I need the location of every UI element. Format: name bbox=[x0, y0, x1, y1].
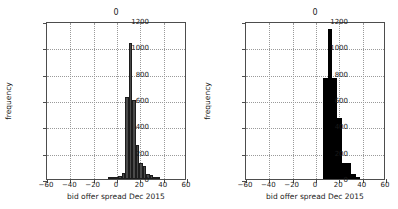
panel-right-xlabel: bid offer spread Dec 2015 bbox=[245, 192, 385, 201]
histogram-bar bbox=[122, 173, 126, 179]
gridline-horizontal bbox=[246, 128, 384, 129]
xtick-label: 0 bbox=[313, 182, 317, 189]
histogram-bar bbox=[118, 176, 122, 179]
ytick-mark bbox=[242, 49, 246, 50]
ytick-label: 1000 bbox=[330, 45, 348, 52]
histogram-bar bbox=[351, 174, 356, 179]
ytick-mark bbox=[242, 128, 246, 129]
gridline-horizontal bbox=[246, 102, 384, 103]
gridline-horizontal bbox=[47, 49, 185, 50]
panel-right-gridlines bbox=[246, 23, 384, 179]
gridline-vertical bbox=[117, 23, 118, 179]
ytick-mark bbox=[43, 102, 47, 103]
ytick-label: 0 bbox=[145, 177, 149, 184]
xtick-label: 20 bbox=[135, 182, 144, 189]
histogram-bar bbox=[108, 177, 112, 179]
gridline-horizontal bbox=[47, 76, 185, 77]
xtick-label: −60 bbox=[238, 182, 253, 189]
gridline-vertical bbox=[70, 23, 71, 179]
histogram-bar bbox=[125, 97, 129, 179]
xtick-label: −20 bbox=[284, 182, 299, 189]
histogram-bar bbox=[129, 43, 133, 179]
xtick-label: −20 bbox=[85, 182, 100, 189]
xtick-label: 60 bbox=[381, 182, 390, 189]
ytick-label: 800 bbox=[136, 71, 149, 78]
xtick-label: 60 bbox=[182, 182, 191, 189]
histogram-bar bbox=[323, 78, 328, 179]
xtick-label: 0 bbox=[114, 182, 118, 189]
gridline-vertical bbox=[164, 23, 165, 179]
ytick-label: 200 bbox=[136, 150, 149, 157]
panel-left-ticks bbox=[47, 23, 185, 179]
panel-right: 0 frequency bid offer spread Dec 2015 02… bbox=[199, 0, 398, 209]
ytick-label: 400 bbox=[335, 124, 348, 131]
panel-left-axes bbox=[46, 22, 186, 180]
ytick-mark bbox=[43, 155, 47, 156]
panel-left-bars bbox=[47, 23, 185, 179]
ytick-label: 1200 bbox=[131, 19, 149, 26]
ytick-label: 600 bbox=[335, 98, 348, 105]
gridline-vertical bbox=[94, 23, 95, 179]
histogram-figure: 0 frequency bid offer spread Dec 2015 02… bbox=[0, 0, 398, 209]
gridline-horizontal bbox=[246, 49, 384, 50]
ytick-mark bbox=[242, 102, 246, 103]
gridline-vertical bbox=[316, 23, 317, 179]
histogram-bar bbox=[153, 177, 157, 179]
histogram-bar bbox=[111, 177, 115, 179]
ytick-mark bbox=[43, 23, 47, 24]
panel-right-title: 0 bbox=[245, 8, 385, 17]
panel-right-ylabel: frequency bbox=[204, 82, 212, 120]
histogram-bar bbox=[150, 175, 154, 179]
ytick-mark bbox=[43, 49, 47, 50]
panel-right-ticks bbox=[246, 23, 384, 179]
ytick-label: 400 bbox=[136, 124, 149, 131]
xtick-label: −40 bbox=[62, 182, 77, 189]
ytick-label: 600 bbox=[136, 98, 149, 105]
ytick-label: 200 bbox=[335, 150, 348, 157]
histogram-bar bbox=[356, 177, 361, 179]
histogram-bar bbox=[139, 163, 143, 179]
panel-left-gridlines bbox=[47, 23, 185, 179]
panel-left-xlabel: bid offer spread Dec 2015 bbox=[46, 192, 186, 201]
xtick-label: 40 bbox=[158, 182, 167, 189]
panel-left-title: 0 bbox=[46, 8, 186, 17]
xtick-label: −60 bbox=[39, 182, 54, 189]
gridline-vertical bbox=[363, 23, 364, 179]
histogram-bar bbox=[132, 100, 136, 179]
ytick-mark bbox=[242, 76, 246, 77]
histogram-bar bbox=[115, 177, 119, 179]
gridline-horizontal bbox=[47, 102, 185, 103]
ytick-mark bbox=[43, 128, 47, 129]
xtick-label: 40 bbox=[357, 182, 366, 189]
panel-left-ylabel: frequency bbox=[5, 82, 13, 120]
ytick-label: 0 bbox=[344, 177, 348, 184]
gridline-vertical bbox=[269, 23, 270, 179]
xtick-label: −40 bbox=[261, 182, 276, 189]
gridline-horizontal bbox=[246, 155, 384, 156]
ytick-mark bbox=[43, 76, 47, 77]
panel-right-bars bbox=[246, 23, 384, 179]
panel-right-axes bbox=[245, 22, 385, 180]
panel-left: 0 frequency bid offer spread Dec 2015 02… bbox=[0, 0, 199, 209]
xtick-label: 20 bbox=[334, 182, 343, 189]
ytick-mark bbox=[242, 155, 246, 156]
gridline-horizontal bbox=[47, 155, 185, 156]
gridline-horizontal bbox=[47, 128, 185, 129]
ytick-label: 1000 bbox=[131, 45, 149, 52]
ytick-label: 1200 bbox=[330, 19, 348, 26]
gridline-vertical bbox=[293, 23, 294, 179]
gridline-horizontal bbox=[246, 76, 384, 77]
ytick-mark bbox=[242, 23, 246, 24]
ytick-label: 800 bbox=[335, 71, 348, 78]
histogram-bar bbox=[157, 177, 161, 179]
